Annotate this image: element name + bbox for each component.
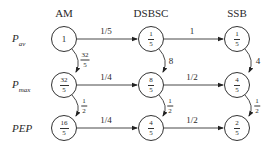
node-am-pep: 165 xyxy=(51,115,77,141)
arrow-ssb-pmax-pep xyxy=(245,95,251,116)
node-value: 1 xyxy=(62,34,67,44)
edge-label-am-pmax-pep: 12 xyxy=(81,98,87,115)
fraction: 25 xyxy=(234,120,240,137)
edge-label-dsbsc-pav-pmax: 8 xyxy=(169,56,174,66)
arrow-dsbsc-pmax-pep xyxy=(159,95,165,116)
arrow-am-pmax-pep xyxy=(72,95,78,116)
edge-label-ssb-pmax-pep: 12 xyxy=(254,98,260,115)
edge-label-ssb-pav-pmax: 4 xyxy=(256,56,261,66)
fraction: 325 xyxy=(60,77,69,94)
row-label-pav: Pav xyxy=(12,32,25,47)
fraction: 15 xyxy=(148,31,154,48)
edge-label-am-pav-pmax: 325 xyxy=(81,52,90,69)
arrow-dsbsc-pav-pmax xyxy=(159,49,165,72)
edge-label-dsbsc-pmax-pep: 12 xyxy=(167,98,173,115)
column-header-ssb: SSB xyxy=(227,7,247,19)
edge-label-dsbsc-ssb-pav: 1 xyxy=(190,26,195,36)
arrow-ssb-pav-pmax xyxy=(245,49,251,72)
fraction: 45 xyxy=(234,77,240,94)
fraction: 45 xyxy=(148,120,154,137)
row-label-pep: PEP xyxy=(12,122,32,134)
node-ssb-pep: 25 xyxy=(224,115,250,141)
fraction: 85 xyxy=(148,77,154,94)
node-am-pmax: 325 xyxy=(51,72,77,98)
edge-label-dsbsc-ssb-pmax: 1/2 xyxy=(186,72,198,82)
node-am-pav: 1 xyxy=(51,26,77,52)
node-ssb-pav: 15 xyxy=(224,26,250,52)
fraction: 165 xyxy=(60,120,69,137)
row-label-pmax: Pmax xyxy=(12,78,30,93)
column-header-am: AM xyxy=(55,7,73,19)
node-dsbsc-pmax: 85 xyxy=(138,72,164,98)
edge-label-am-dsbsc-pav: 1/5 xyxy=(100,26,112,36)
node-ssb-pmax: 45 xyxy=(224,72,250,98)
column-header-dsbsc: DSBSC xyxy=(134,7,169,19)
power-conversion-diagram: AM DSBSC SSB Pav Pmax PEP 1 325 165 15 8… xyxy=(0,0,275,150)
node-dsbsc-pep: 45 xyxy=(138,115,164,141)
edge-label-am-dsbsc-pep: 1/4 xyxy=(100,115,112,125)
arrow-am-pav-pmax xyxy=(72,49,78,72)
edge-label-dsbsc-ssb-pep: 1/2 xyxy=(186,115,198,125)
node-dsbsc-pav: 15 xyxy=(138,26,164,52)
edge-label-am-dsbsc-pmax: 1/4 xyxy=(100,72,112,82)
fraction: 15 xyxy=(234,31,240,48)
